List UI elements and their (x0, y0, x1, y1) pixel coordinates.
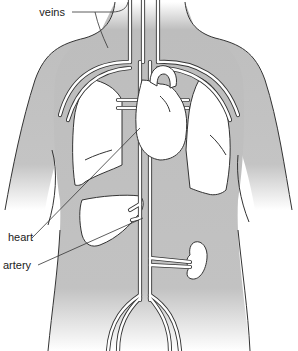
circulatory-diagram: veins heart artery (0, 0, 298, 351)
veins-label: veins (39, 6, 65, 18)
artery-label: artery (3, 259, 32, 271)
heart-label: heart (8, 231, 33, 243)
